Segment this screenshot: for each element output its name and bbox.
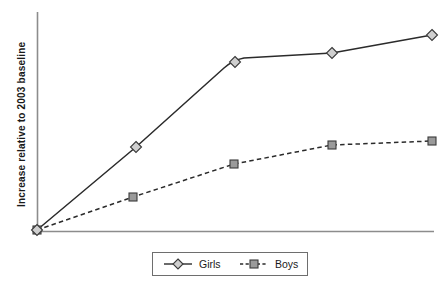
series-line-boys — [37, 141, 432, 230]
legend: Girls Boys — [153, 253, 308, 276]
data-point-boys-1 — [129, 193, 137, 201]
data-point-girls-2 — [230, 57, 241, 68]
legend-label-girls: Girls — [199, 258, 221, 270]
data-point-boys-2 — [230, 160, 238, 168]
legend-label-boys: Boys — [275, 258, 298, 270]
data-point-girls-3 — [327, 48, 338, 59]
line-chart: Increase relative to 2003 baseline Girls — [0, 0, 446, 291]
chart-page: Increase relative to 2003 baseline Girls — [0, 0, 446, 291]
y-axis-label: Increase relative to 2003 baseline — [16, 42, 27, 207]
legend-swatch-boys-marker — [250, 260, 258, 268]
data-point-boys-3 — [328, 141, 336, 149]
data-point-boys-4 — [428, 137, 436, 145]
data-point-girls-4 — [427, 30, 438, 41]
